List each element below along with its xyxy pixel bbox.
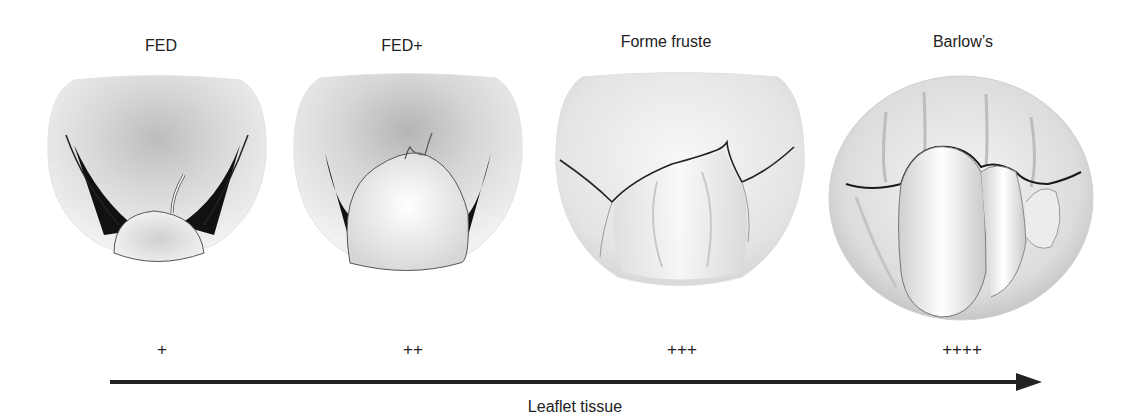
stage-title-forme-fruste: Forme fruste [566, 33, 766, 51]
stage-title-barlows: Barlow’s [863, 33, 1063, 51]
grade-fed-plus: ++ [363, 340, 463, 360]
grade-forme-fruste: +++ [632, 340, 732, 360]
valve-illustration-fed-plus [290, 73, 526, 273]
stage-title-fed-plus: FED+ [302, 37, 502, 55]
leaflet-tissue-arrow [108, 372, 1043, 392]
grade-fed: + [112, 340, 212, 360]
valve-illustration-barlows [826, 72, 1096, 322]
axis-label: Leaflet tissue [528, 398, 622, 416]
grade-barlows: ++++ [912, 340, 1012, 360]
valve-illustration-fed [44, 75, 270, 265]
valve-illustration-forme-fruste [552, 72, 808, 292]
stage-title-fed: FED [61, 37, 261, 55]
